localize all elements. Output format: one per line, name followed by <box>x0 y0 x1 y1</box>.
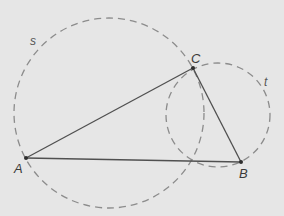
point-b <box>239 160 243 164</box>
label-b: B <box>239 166 248 181</box>
segment-ac <box>26 68 193 158</box>
label-a: A <box>13 161 23 176</box>
label-circle-t: t <box>264 75 268 89</box>
point-a <box>24 156 28 160</box>
segment-bc <box>193 68 241 162</box>
label-circle-s: s <box>30 34 36 48</box>
label-c: C <box>191 51 201 66</box>
segment-ab <box>26 158 241 162</box>
point-c <box>191 66 195 70</box>
triangle-circles-diagram: A B C s t <box>0 0 284 216</box>
circle-t <box>166 63 270 167</box>
